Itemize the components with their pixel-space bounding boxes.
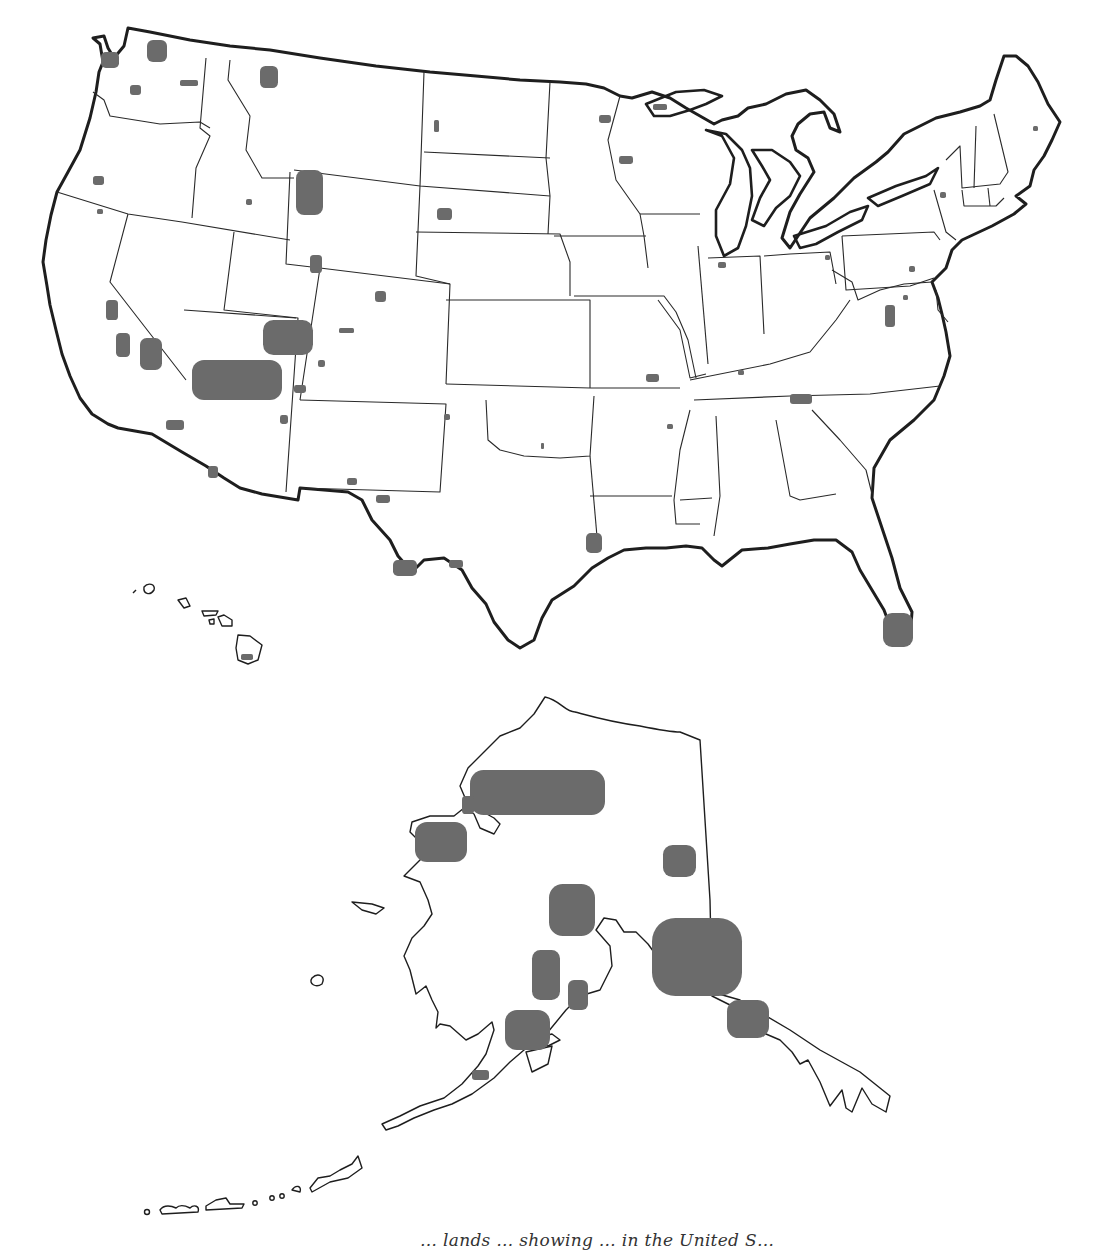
protected-land-patch: Sequoia / Kings Canyon — [116, 333, 130, 357]
protected-land-patch: Big Thicket — [586, 533, 602, 553]
hawaii-inset — [133, 584, 262, 664]
protected-land-patch: Cuyahoga Valley — [825, 255, 830, 260]
contiguous-us — [43, 28, 1060, 648]
protected-land-patch: Delaware Water Gap — [909, 266, 915, 272]
protected-land-patch: Apostle Islands / Pictured Rocks — [619, 156, 633, 164]
protected-land-patch: Glacier Bay — [727, 1000, 769, 1038]
great-lakes — [646, 90, 938, 256]
protected-land-patch: Rocky Mountain — [375, 291, 386, 302]
protected-land-patch: Mammoth Cave — [738, 370, 744, 375]
protected-land-patch: Hawaii Volcanoes — [241, 654, 253, 660]
protected-land-patch: Everglades — [883, 613, 913, 647]
protected-land-patch: Guadalupe Mountains / Carlsbad — [376, 495, 390, 503]
protected-land-patch: Great Smoky Mountains — [790, 394, 812, 404]
protected-land-patch: Olympic — [101, 52, 119, 68]
protected-land-patch: Yukon-Charley Rivers — [663, 845, 696, 877]
protected-land-patch: Gates of the Arctic / Kobuk / Noatak — [470, 770, 605, 815]
protected-land-patch: Big Bend — [393, 560, 417, 576]
protected-land-patch: Yosemite — [106, 300, 118, 320]
protected-land-patch: Death Valley — [140, 338, 162, 370]
protected-land-patch: Catoctin — [903, 295, 908, 300]
protected-land-patch: Ozark / Buffalo River — [646, 374, 659, 382]
protected-land-patch: Lake Clark — [532, 950, 560, 1000]
protected-land-patch: Organ Pipe Cactus — [208, 466, 218, 478]
state-boundaries — [57, 58, 1008, 548]
protected-land-patch: Bandelier — [444, 414, 450, 420]
protected-land-patch: Denali — [549, 884, 595, 936]
protected-land-patch: Crater Lake — [93, 176, 104, 185]
protected-land-patch: Dinosaur — [310, 255, 322, 273]
protected-land-patch: Chickasaw — [541, 443, 544, 449]
protected-land-patches: OlympicNorth CascadesMount RainierLake C… — [93, 40, 1038, 1080]
protected-land-patch: Adirondack area — [940, 192, 946, 198]
protected-land-patch: Lake Chelan — [180, 80, 198, 86]
protected-land-patch: Black Canyon — [339, 328, 354, 333]
protected-land-patch: Shenandoah — [885, 305, 895, 327]
protected-land-patch: Amistad — [449, 560, 463, 568]
protected-land-patch: Aniakchak — [472, 1070, 489, 1080]
protected-land-patch: Wind Cave / Badlands — [437, 208, 452, 220]
protected-land-patch: Mount Rainier — [130, 85, 141, 95]
protected-land-patch: Acadia — [1033, 126, 1038, 131]
protected-land-patch: Redwood — [97, 209, 103, 214]
protected-land-patch: Kenai Fjords — [568, 980, 588, 1010]
protected-land-patch: Sunset Crater — [280, 415, 288, 424]
protected-land-patch: Mesa Verde — [318, 360, 325, 367]
map-caption: … lands … showing … in the United S… — [420, 1230, 1099, 1250]
us-outline — [43, 28, 1060, 648]
protected-land-patch: White Sands — [347, 478, 357, 485]
aleutian-islands — [145, 1156, 363, 1215]
protected-land-patch: Yellowstone / Grand Teton — [296, 170, 323, 215]
protected-land-patch: Craters of the Moon — [246, 199, 252, 205]
protected-land-patch: Glacier — [260, 66, 278, 88]
protected-land-patch: Katmai — [505, 1010, 550, 1050]
protected-land-patch: Bering Land Bridge — [415, 822, 467, 862]
protected-land-patch: Wrangell-St. Elias — [652, 918, 742, 996]
protected-land-patch: North Cascades — [147, 40, 167, 62]
protected-land-patch: Petrified Forest — [294, 385, 306, 393]
protected-land-patch: Isle Royale — [653, 104, 667, 110]
alaska-outline — [382, 697, 890, 1130]
protected-land-patch: Voyageurs — [599, 115, 611, 123]
protected-land-patch: Grand Canyon / Lake Mead — [192, 360, 282, 400]
protected-land-patch: Theodore Roosevelt — [434, 120, 439, 132]
protected-land-patch: Hot Springs — [667, 424, 673, 429]
protected-land-patch: Canyonlands / Arches / Capitol Reef / Gl… — [263, 320, 313, 355]
protected-land-patch: Cape Krusenstern — [462, 796, 474, 814]
protected-land-patch: Indiana Dunes — [718, 262, 726, 268]
protected-land-patch: Joshua Tree — [166, 420, 184, 430]
